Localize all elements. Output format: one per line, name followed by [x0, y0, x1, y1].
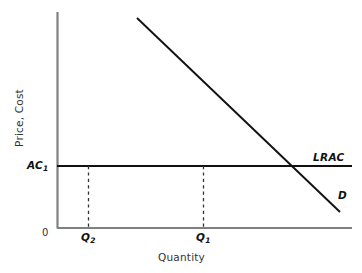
x-axis-title: Quantity: [158, 252, 205, 263]
x-tick-label-q2: Q2: [81, 232, 95, 243]
demand-curve-label: D: [338, 190, 347, 201]
origin-label: 0: [42, 228, 48, 238]
ac1-level-label-text: AC: [27, 159, 43, 171]
plot-area: [0, 0, 362, 273]
x-tick-label-q1-text: Q: [196, 231, 205, 243]
demand-curve: [137, 18, 340, 212]
y-axis-title-text: Price, Cost: [14, 89, 25, 147]
x-tick-label-q1-subscript: 1: [205, 236, 210, 245]
economics-diagram: Price, Cost Quantity 0 AC1 LRAC D Q2 Q1: [0, 0, 362, 273]
x-tick-label-q1: Q1: [196, 232, 210, 243]
ac1-level-label: AC1: [27, 160, 48, 171]
ac1-level-label-subscript: 1: [43, 164, 48, 173]
x-tick-label-q2-subscript: 2: [90, 236, 95, 245]
lrac-curve-label: LRAC: [313, 152, 345, 163]
y-axis-title: Price, Cost: [12, 78, 26, 158]
x-tick-label-q2-text: Q: [81, 231, 90, 243]
